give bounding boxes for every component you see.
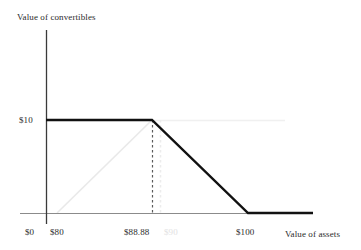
- x-axis-title: Value of assets: [285, 230, 340, 239]
- reference-diagonal-line: [57, 120, 152, 213]
- y-axis-title: Value of convertibles: [17, 13, 96, 22]
- payoff-curve: [46, 120, 313, 213]
- chart-plot-area: [0, 0, 361, 250]
- x-tick-label-90: $90: [164, 228, 178, 237]
- x-tick-label-8888: $88.88: [124, 228, 149, 237]
- chart-figure: Value of convertibles $10 $0 $80 $88.88 …: [0, 0, 361, 250]
- x-tick-label-100: $100: [236, 228, 254, 237]
- x-tick-label-0: $0: [25, 228, 34, 237]
- x-tick-label-80: $80: [50, 228, 64, 237]
- y-tick-label-10: $10: [19, 116, 33, 125]
